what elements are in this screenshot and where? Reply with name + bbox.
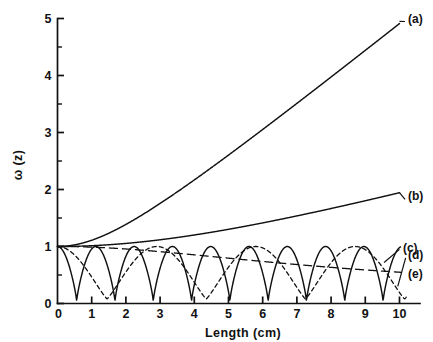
- x-major-ticks: [92, 297, 400, 304]
- chart-figure: 012345 012345678910 (a)(b)(c)(d)(e) Leng…: [0, 0, 433, 342]
- y-tick-labels: 012345: [45, 12, 52, 311]
- x-axis-title: Length (cm): [205, 326, 281, 340]
- x-tick-label: 5: [225, 307, 232, 321]
- x-tick-label: 7: [293, 307, 300, 321]
- x-tick-labels: 012345678910: [55, 307, 406, 321]
- x-tick-label: 9: [362, 307, 369, 321]
- y-tick-label: 3: [45, 126, 52, 140]
- curve-c: [58, 247, 402, 273]
- leader-b: [399, 193, 405, 200]
- x-tick-label: 10: [393, 307, 407, 321]
- x-tick-label: 3: [157, 307, 164, 321]
- gaussian-beam-width-plot: 012345 012345678910 (a)(b)(c)(d)(e) Leng…: [0, 0, 433, 342]
- curve-labels: (a)(b)(c)(d)(e): [403, 12, 423, 281]
- x-tick-label: 1: [88, 307, 95, 321]
- x-tick-label: 0: [55, 307, 62, 321]
- y-axis-group: 012345: [45, 12, 64, 311]
- x-axis-group: 012345678910: [55, 297, 420, 322]
- curve-b: [58, 193, 400, 247]
- curve-e: [58, 247, 401, 301]
- y-axis-title: ω (z): [11, 150, 25, 181]
- x-tick-label: 8: [328, 307, 335, 321]
- curve-paths: [58, 24, 409, 301]
- curve-a: [58, 24, 400, 247]
- x-tick-label: 6: [259, 307, 266, 321]
- x-tick-label: 4: [191, 307, 198, 321]
- x-tick-label: 2: [122, 307, 129, 321]
- y-tick-label: 2: [45, 183, 52, 197]
- curve-label-b: (b): [408, 189, 423, 203]
- curve-label-a: (a): [408, 12, 423, 26]
- y-tick-label: 5: [45, 12, 52, 26]
- curve-label-d: (d): [408, 248, 423, 262]
- y-tick-label: 0: [45, 297, 52, 311]
- y-tick-label: 4: [45, 69, 52, 83]
- y-tick-label: 1: [45, 240, 52, 254]
- curve-label-e: (e): [408, 267, 423, 281]
